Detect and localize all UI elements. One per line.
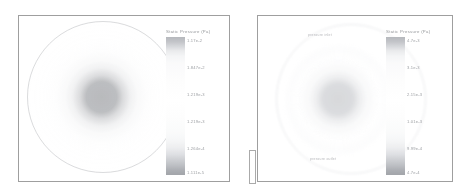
contour-panel-right: pressure inlet pressure outlet Static Pr… (257, 15, 453, 182)
colorbar-tick-label: 1.219e-3 (187, 119, 205, 124)
contour-panel-left: Static Pressure (Pa) 1.17e-2 1.847e-2 1.… (18, 15, 230, 182)
colorbar-tick-label: 1.01e-3 (407, 119, 422, 124)
colorbar-tick-label: 1.264e-4 (187, 146, 205, 151)
colorbar-tick-label: 9.99e-4 (407, 146, 422, 151)
colorbar-tick-label: 4.7e-4 (407, 170, 420, 175)
colorbar-tick-label: 1.219e-3 (187, 92, 205, 97)
colorbar-ticks-left: 1.17e-2 1.847e-2 1.219e-3 1.219e-3 1.264… (187, 37, 230, 175)
plot-annotation-top: pressure inlet (308, 33, 332, 37)
plot-annotation-bottom: pressure outlet (310, 157, 336, 161)
colorbar-tick-label: 1.847e-2 (187, 65, 205, 70)
pressure-contour-right (298, 58, 378, 140)
colorbar-tick-label: 2.15e-3 (407, 92, 422, 97)
panel-divider-tab (249, 150, 256, 184)
colorbar-title-right: Static Pressure (Pa) (386, 29, 453, 34)
colorbar-gradient-left (166, 37, 185, 175)
colorbar-tick-label: 1.111e-5 (187, 170, 204, 175)
colorbar-tick-label: 3.1e-3 (407, 65, 420, 70)
colorbar-legend-right: Static Pressure (Pa) 4.7e-3 3.1e-3 2.15e… (386, 29, 453, 175)
figure-canvas: Static Pressure (Pa) 1.17e-2 1.847e-2 1.… (0, 0, 463, 196)
colorbar-legend-left: Static Pressure (Pa) 1.17e-2 1.847e-2 1.… (166, 29, 230, 175)
colorbar-body-right: 4.7e-3 3.1e-3 2.15e-3 1.01e-3 9.99e-4 4.… (386, 37, 453, 175)
colorbar-tick-label: 1.17e-2 (187, 38, 202, 43)
colorbar-tick-label: 4.7e-3 (407, 38, 420, 43)
colorbar-body-left: 1.17e-2 1.847e-2 1.219e-3 1.219e-3 1.264… (166, 37, 230, 175)
colorbar-title-left: Static Pressure (Pa) (166, 29, 230, 34)
pressure-contour-rim-left (27, 21, 179, 173)
colorbar-gradient-right (386, 37, 405, 175)
colorbar-ticks-right: 4.7e-3 3.1e-3 2.15e-3 1.01e-3 9.99e-4 4.… (407, 37, 453, 175)
